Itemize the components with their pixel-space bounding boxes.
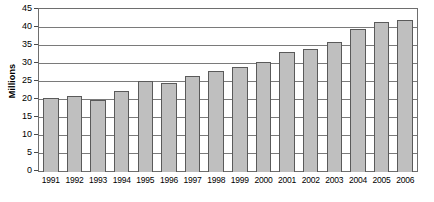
bar xyxy=(279,52,295,172)
x-axis-tick-label: 2001 xyxy=(275,175,299,185)
bar-slot xyxy=(39,9,63,172)
bar-slot xyxy=(86,9,110,172)
bar xyxy=(374,22,390,172)
bar-slot xyxy=(299,9,323,172)
bar xyxy=(43,98,59,172)
y-axis-tick-label: 5 xyxy=(8,148,32,157)
x-axis-tick-label: 2005 xyxy=(370,175,394,185)
bar-slot xyxy=(275,9,299,172)
bar xyxy=(90,100,106,172)
bar-slot xyxy=(346,9,370,172)
y-axis-tick-label: 30 xyxy=(8,58,32,67)
bar-slot xyxy=(252,9,276,172)
x-axis-tick-label: 1993 xyxy=(86,175,110,185)
bar xyxy=(67,96,83,172)
y-axis-tick-label: 20 xyxy=(8,94,32,103)
bar-slot xyxy=(181,9,205,172)
x-axis-tick-label: 1995 xyxy=(134,175,158,185)
y-axis-tick-label: 40 xyxy=(8,22,32,31)
x-axis-tick-label: 1991 xyxy=(39,175,63,185)
bar-series xyxy=(39,9,417,172)
bar xyxy=(208,71,224,172)
bar xyxy=(303,49,319,172)
bar-slot xyxy=(134,9,158,172)
bar-chart: Millions 454035302520151050 199119921993… xyxy=(0,0,434,202)
x-axis-tick-label: 2000 xyxy=(252,175,276,185)
bar xyxy=(114,91,130,173)
y-axis-tick-label: 25 xyxy=(8,76,32,85)
bar-slot xyxy=(323,9,347,172)
bar xyxy=(327,42,343,172)
bar-slot xyxy=(228,9,252,172)
x-axis-tick-labels: 1991199219931994199519961997199819992000… xyxy=(39,175,417,185)
bar xyxy=(185,76,201,172)
x-axis-tick-label: 1999 xyxy=(228,175,252,185)
x-axis-tick-label: 2003 xyxy=(323,175,347,185)
bar-slot xyxy=(157,9,181,172)
bar xyxy=(256,62,272,172)
bar-slot xyxy=(393,9,417,172)
x-axis-tick-label: 1997 xyxy=(181,175,205,185)
bar-slot xyxy=(110,9,134,172)
x-axis-tick-label: 1996 xyxy=(157,175,181,185)
bar xyxy=(138,81,154,172)
y-axis-tick-label: 15 xyxy=(8,112,32,121)
bar xyxy=(397,20,413,172)
x-axis-tick-label: 1998 xyxy=(204,175,228,185)
x-axis-tick-label: 2002 xyxy=(299,175,323,185)
bar-slot xyxy=(63,9,87,172)
bar-slot xyxy=(370,9,394,172)
y-axis-tick-label: 0 xyxy=(8,166,32,175)
bar xyxy=(161,83,177,172)
bar-slot xyxy=(204,9,228,172)
y-axis-tick-label: 45 xyxy=(8,4,32,13)
y-axis-tick-label: 35 xyxy=(8,40,32,49)
x-axis-tick-label: 1994 xyxy=(110,175,134,185)
bar xyxy=(350,29,366,172)
x-axis-tick-label: 1992 xyxy=(63,175,87,185)
x-axis-tick-label: 2004 xyxy=(346,175,370,185)
bar xyxy=(232,67,248,172)
x-axis-tick-label: 2006 xyxy=(393,175,417,185)
y-axis-tick-label: 10 xyxy=(8,130,32,139)
